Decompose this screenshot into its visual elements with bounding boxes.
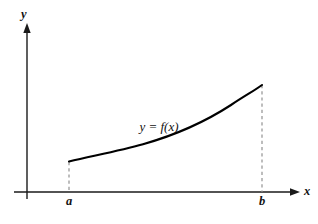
y-axis-label: y	[19, 7, 27, 21]
bound-label-a: a	[66, 194, 72, 208]
x-axis-arrow-icon	[290, 188, 300, 195]
function-equation-label: y = f(x)	[137, 119, 178, 134]
y-axis-arrow-icon	[23, 23, 30, 33]
figure-container: y x a b y = f(x)	[0, 0, 318, 224]
x-axis-label: x	[303, 184, 310, 198]
bound-label-b: b	[259, 194, 265, 208]
graph-figure: y x a b y = f(x)	[0, 0, 318, 224]
